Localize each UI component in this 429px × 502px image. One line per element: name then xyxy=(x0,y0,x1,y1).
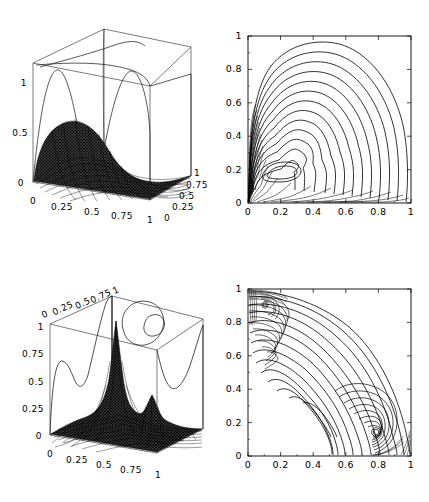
axis-tick-z-2: 1 xyxy=(21,78,27,88)
axis-tick-y-4: 0.8 xyxy=(226,316,242,327)
tick-marks xyxy=(248,36,411,203)
axis-tick-y-1: 0.2 xyxy=(226,417,242,428)
plot-frame xyxy=(248,36,411,203)
axis-tick-y-4: 0.8 xyxy=(226,63,242,74)
axis-y-bottom-left: 0 0.25 0.5 0.75 1 xyxy=(40,284,121,320)
contour-lines xyxy=(249,42,408,202)
axis-tick-y-0: 0 xyxy=(236,197,242,208)
axis-tick-y-4: 1 xyxy=(111,284,121,296)
axis-tick-y-2: 0.5 xyxy=(179,191,195,201)
axis-tick-x-0: 0 xyxy=(245,459,251,470)
contour-dense-region xyxy=(249,104,409,202)
axis-tick-x-0: 0 xyxy=(245,206,251,217)
axis-y-bottom-right: 0 0.2 0.4 0.6 0.8 1 xyxy=(226,283,242,461)
axis-tick-y-2: 0.4 xyxy=(226,130,242,141)
axis-z-bottom-left: 0 0.25 0.5 0.75 1 xyxy=(22,322,44,441)
axis-tick-x-0: 0 xyxy=(47,449,53,459)
axis-tick-x-3: 0.75 xyxy=(120,465,142,475)
axis-tick-x-2: 0.4 xyxy=(305,206,321,217)
axis-x-top-right: 0 0.2 0.4 0.6 0.8 1 xyxy=(245,206,414,217)
axis-tick-y-0: 0 xyxy=(40,308,50,320)
axis-tick-z-1: 0.25 xyxy=(22,404,44,414)
axis-tick-y-3: 0.75 xyxy=(89,287,113,305)
axis-tick-x-5: 1 xyxy=(408,459,414,470)
axis-tick-x-3: 0.6 xyxy=(338,459,354,470)
surface-plot-bottom-left: 0 0.25 0.5 0.75 1 0 0.25 0.5 0.75 1 0 0.… xyxy=(0,251,215,502)
axis-tick-x-2: 0.4 xyxy=(305,459,321,470)
axis-tick-z-2: 0.5 xyxy=(28,377,44,387)
plot-frame xyxy=(248,289,411,456)
axis-tick-x-1: 0.2 xyxy=(272,459,288,470)
axis-tick-x-4: 0.8 xyxy=(370,206,386,217)
axis-tick-z-4: 1 xyxy=(38,322,44,332)
axis-tick-y-3: 0.6 xyxy=(226,350,242,361)
axis-tick-y-0: 0 xyxy=(236,450,242,461)
axis-tick-y-2: 0.4 xyxy=(226,383,242,394)
axis-z-top-left: 0 0.5 1 xyxy=(12,78,28,188)
axis-tick-z-0: 0 xyxy=(36,431,42,441)
axis-x-bottom-right: 0 0.2 0.4 0.6 0.8 1 xyxy=(245,459,414,470)
axis-tick-x-4: 1 xyxy=(155,470,161,480)
axis-tick-x-0: 0 xyxy=(30,196,36,206)
axis-tick-z-1: 0.5 xyxy=(12,128,28,138)
axis-y-top-right: 0 0.2 0.4 0.6 0.8 1 xyxy=(226,30,242,208)
axis-tick-y-3: 0.25 xyxy=(172,202,194,212)
figure-canvas: 0 0.5 1 0 0.25 0.5 0.75 1 1 0.75 0.5 0.2… xyxy=(0,0,429,502)
axis-tick-y-5: 1 xyxy=(236,283,242,294)
axis-tick-x-1: 0.25 xyxy=(66,455,88,465)
axis-tick-x-3: 0.75 xyxy=(111,211,133,221)
axis-tick-x-2: 0.5 xyxy=(96,460,112,470)
axis-tick-y-3: 0.6 xyxy=(226,97,242,108)
axis-tick-x-4: 1 xyxy=(147,215,153,225)
axis-tick-y-0: 1 xyxy=(194,168,200,178)
axis-x-bottom-left: 0 0.25 0.5 0.75 1 xyxy=(47,449,161,480)
contour-plot-top-right: 0 0.2 0.4 0.6 0.8 1 0 0.2 0.4 0.6 0.8 1 xyxy=(215,0,429,251)
axis-tick-x-4: 0.8 xyxy=(370,459,386,470)
surface-mesh xyxy=(34,119,190,201)
axis-tick-x-3: 0.6 xyxy=(338,206,354,217)
axis-tick-z-0: 0 xyxy=(18,178,24,188)
surface-plot-top-left: 0 0.5 1 0 0.25 0.5 0.75 1 1 0.75 0.5 0.2… xyxy=(0,0,215,251)
tick-marks xyxy=(248,289,411,456)
axis-tick-x-2: 0.5 xyxy=(84,207,100,217)
axis-x-top-left: 0 0.25 0.5 0.75 1 xyxy=(30,196,153,225)
axis-tick-y-1: 0.2 xyxy=(226,164,242,175)
surface-mesh xyxy=(51,321,202,452)
axis-tick-z-3: 0.75 xyxy=(22,349,44,359)
axis-tick-y-4: 0 xyxy=(164,213,170,223)
axis-tick-x-1: 0.2 xyxy=(272,206,288,217)
contour-plot-bottom-right: 0 0.2 0.4 0.6 0.8 1 0 0.2 0.4 0.6 0.8 1 xyxy=(215,251,429,502)
axis-tick-y-5: 1 xyxy=(236,30,242,41)
axis-tick-x-5: 1 xyxy=(408,206,414,217)
axis-tick-x-1: 0.25 xyxy=(51,202,73,212)
axis-tick-y-1: 0.75 xyxy=(186,180,208,190)
